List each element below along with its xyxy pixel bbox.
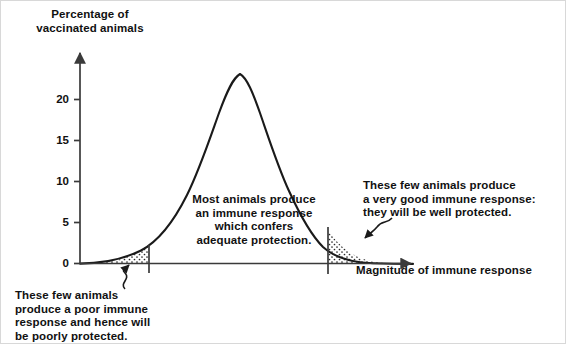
y-tick-label-5: 5: [41, 216, 69, 228]
annotation-left: These few animals produce a poor immune …: [15, 289, 205, 343]
y-tick-label-20: 20: [41, 93, 69, 105]
x-axis-title: Magnitude of immune response: [356, 264, 532, 278]
y-tick-label-10: 10: [41, 175, 69, 187]
leader-line-right: [365, 218, 392, 238]
y-tick-label-15: 15: [41, 134, 69, 146]
leader-line-left: [123, 265, 129, 289]
annotation-center: Most animals produce an immune response …: [171, 193, 337, 247]
chart-figure: 0 5 10 15 20 Percentage of vaccinated an…: [0, 0, 566, 344]
annotation-right: These few animals produce a very good im…: [363, 179, 559, 220]
y-tick-label-0: 0: [41, 257, 69, 269]
y-axis-ticks: [74, 100, 80, 264]
y-axis-title: Percentage of vaccinated animals: [15, 8, 165, 35]
shaded-region-very-good-responders: [328, 230, 413, 264]
